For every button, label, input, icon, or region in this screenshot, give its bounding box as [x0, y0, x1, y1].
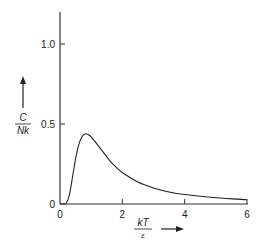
y-tick-label: 0.5 — [41, 119, 55, 130]
heat-capacity-curve — [60, 134, 247, 204]
x-tick-label: 0 — [57, 209, 63, 220]
chart: 00.51.0 0246 C Nk kT ε — [0, 0, 263, 246]
x-label-numerator: kT — [137, 217, 149, 228]
x-label-denominator: ε — [141, 231, 145, 240]
x-ticks: 0246 — [57, 199, 250, 220]
y-ticks: 00.51.0 — [41, 39, 65, 210]
x-axis-label: kT ε — [134, 217, 184, 240]
arrow-up-icon — [20, 76, 26, 84]
axes — [60, 12, 248, 204]
y-label-numerator: C — [19, 112, 27, 123]
x-tick-label: 2 — [120, 209, 126, 220]
x-tick-label: 4 — [182, 209, 188, 220]
arrow-right-icon — [176, 226, 184, 232]
y-axis-label: C Nk — [15, 76, 31, 136]
y-tick-label: 1.0 — [41, 39, 55, 50]
x-tick-label: 6 — [244, 209, 250, 220]
y-tick-label: 0 — [49, 199, 55, 210]
y-label-denominator: Nk — [17, 125, 30, 136]
